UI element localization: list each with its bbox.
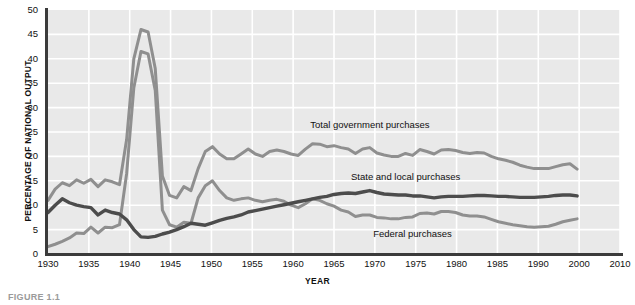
x-tick-label: 1990 (516, 258, 560, 269)
y-tick-label: 25 (8, 127, 38, 137)
y-tick-label: 30 (8, 103, 38, 113)
x-tick-label: 1965 (312, 258, 356, 269)
x-tick-label: 2010 (598, 258, 635, 269)
y-axis-line (45, 8, 48, 256)
chart-svg (48, 10, 620, 254)
x-tick-label: 1985 (475, 258, 519, 269)
x-tick-label: 1975 (394, 258, 438, 269)
x-tick-label: 1940 (108, 258, 152, 269)
y-tick-label: 45 (8, 29, 38, 39)
y-tick-label: 15 (8, 176, 38, 186)
x-axis-line (45, 253, 623, 256)
figure-container: PERCENTAGE OF NATIONAL OUTPUT YEAR 05101… (0, 0, 635, 305)
x-tick-label: 2000 (557, 258, 601, 269)
x-axis-title: YEAR (0, 276, 635, 286)
x-tick-label: 1980 (435, 258, 479, 269)
y-tick-label: 50 (8, 5, 38, 15)
x-tick-label: 1960 (271, 258, 315, 269)
y-tick-label: 20 (8, 151, 38, 161)
x-tick-label: 1955 (230, 258, 274, 269)
x-tick-label: 1930 (26, 258, 70, 269)
x-tick-label: 1945 (149, 258, 193, 269)
x-tick-label: 1970 (353, 258, 397, 269)
series-label: Total government purchases (310, 119, 429, 130)
x-tick-label: 1950 (189, 258, 233, 269)
y-tick-label: 40 (8, 54, 38, 64)
y-tick-label: 35 (8, 78, 38, 88)
plot-area (48, 10, 620, 254)
series-label: State and local purchases (351, 171, 460, 182)
y-tick-label: 10 (8, 200, 38, 210)
series-label: Federal purchases (373, 228, 452, 239)
figure-caption: FIGURE 1.1 (8, 292, 60, 302)
x-tick-label: 1935 (67, 258, 111, 269)
y-tick-label: 5 (8, 225, 38, 235)
